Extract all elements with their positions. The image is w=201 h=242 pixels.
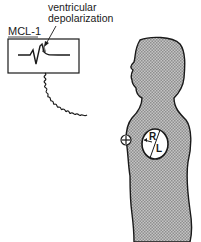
heart-right-label: R	[149, 131, 156, 142]
monitor-box	[8, 39, 79, 73]
positive-electrode-icon	[121, 135, 131, 145]
annotation-line-2: depolarization	[48, 13, 113, 24]
coiled-cable	[44, 73, 87, 116]
heart-left-label: L	[156, 143, 162, 154]
lead-label: MCL-1	[8, 26, 41, 37]
